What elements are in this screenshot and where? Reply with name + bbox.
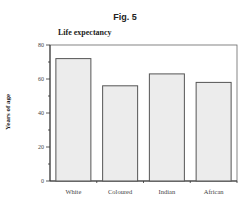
bar-coloured (103, 86, 138, 181)
y-tick-label: 0 (41, 178, 44, 184)
x-category-label: Coloured (108, 188, 133, 195)
x-category-label: Indian (159, 188, 176, 195)
x-category-label: African (204, 188, 225, 195)
bar-indian (149, 74, 184, 181)
y-tick-label: 20 (38, 144, 44, 150)
x-category-label: White (65, 188, 81, 195)
bar-african (196, 82, 231, 181)
y-tick-label: 80 (38, 42, 44, 48)
y-tick-label: 60 (38, 76, 44, 82)
bar-white (56, 59, 91, 181)
y-tick-label: 40 (38, 110, 44, 116)
bar-chart: 020406080WhiteColouredIndianAfrican (0, 0, 250, 212)
